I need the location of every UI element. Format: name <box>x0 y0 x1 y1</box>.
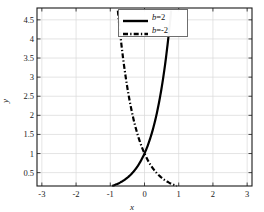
x-tick-label: 2 <box>203 189 223 199</box>
exponential-plot-figure: -3-2-10123 0.511.522.533.544.5 x y b=2 b… <box>0 0 264 212</box>
y-tick-label: 3.5 <box>12 53 34 63</box>
y-tick-label: 1.5 <box>12 129 34 139</box>
y-tick-label: 4.5 <box>12 15 34 25</box>
x-tick-label: 1 <box>169 189 189 199</box>
legend-item-1[interactable]: b=-2 <box>119 23 187 36</box>
legend-label-0-value: =2 <box>156 12 165 22</box>
x-tick-label: 0 <box>135 189 155 199</box>
legend-item-0[interactable]: b=2 <box>119 10 187 23</box>
x-tick-label: -2 <box>66 189 86 199</box>
x-axis-label: x <box>0 202 264 212</box>
legend-swatch-dashdot <box>122 25 149 35</box>
legend-label-1: b=-2 <box>152 25 168 35</box>
y-axis-label: y <box>0 91 10 111</box>
legend[interactable]: b=2 b=-2 <box>118 9 188 37</box>
x-tick-label: -1 <box>100 189 120 199</box>
x-tick-label: 3 <box>237 189 257 199</box>
y-tick-label: 0.5 <box>12 168 34 178</box>
legend-swatch-solid <box>122 12 149 22</box>
y-tick-label: 4 <box>12 34 34 44</box>
y-tick-label: 2 <box>12 110 34 120</box>
y-tick-label: 3 <box>12 72 34 82</box>
legend-label-1-value: =-2 <box>156 25 168 35</box>
x-tick-label: -3 <box>32 189 52 199</box>
y-tick-label: 1 <box>12 149 34 159</box>
legend-label-0: b=2 <box>152 12 165 22</box>
y-tick-label: 2.5 <box>12 91 34 101</box>
